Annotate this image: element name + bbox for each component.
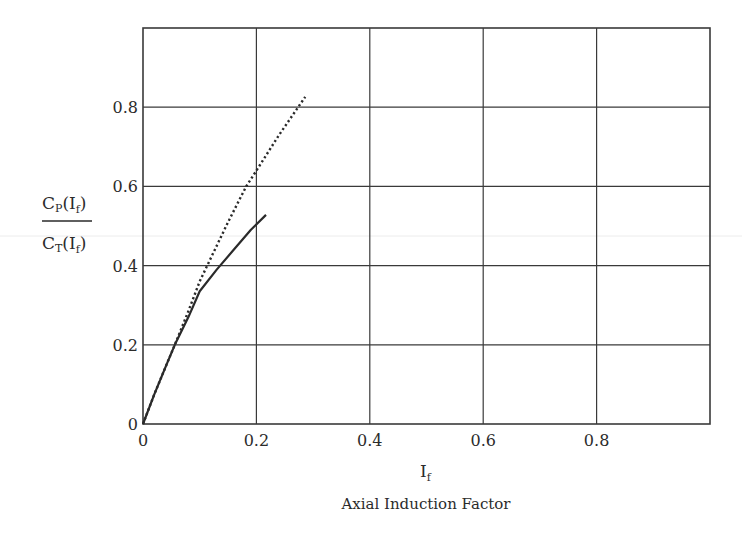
- x-axis-caption: Axial Induction Factor: [340, 495, 511, 513]
- data-series: [143, 97, 305, 424]
- y-label-numerator: CP(If): [42, 193, 87, 216]
- x-label-symbol: If: [420, 461, 432, 484]
- solid-series-line: [143, 215, 266, 424]
- x-tick-label: 0: [138, 431, 148, 450]
- y-tick-label: 0.8: [113, 98, 138, 117]
- y-tick-label: 0.2: [113, 336, 138, 355]
- x-tick-label: 0.8: [584, 431, 609, 450]
- y-axis-tick-labels: 00.20.40.60.8: [113, 98, 138, 434]
- x-tick-label: 0.4: [357, 431, 382, 450]
- y-tick-label: 0: [128, 415, 138, 434]
- gridlines: [143, 28, 710, 424]
- y-axis-label: CP(If) CT(If): [42, 193, 92, 256]
- x-tick-label: 0.2: [244, 431, 269, 450]
- y-label-denominator: CT(If): [42, 233, 86, 256]
- y-tick-label: 0.4: [113, 257, 138, 276]
- x-axis-label: If Axial Induction Factor: [340, 461, 511, 513]
- x-axis-tick-labels: 00.20.40.60.8: [138, 431, 609, 450]
- plot-frame: [143, 28, 710, 424]
- chart: 00.20.40.60.8 00.20.40.60.8 CP(If) CT(If…: [0, 0, 742, 541]
- y-tick-label: 0.6: [113, 177, 138, 196]
- x-tick-label: 0.6: [470, 431, 495, 450]
